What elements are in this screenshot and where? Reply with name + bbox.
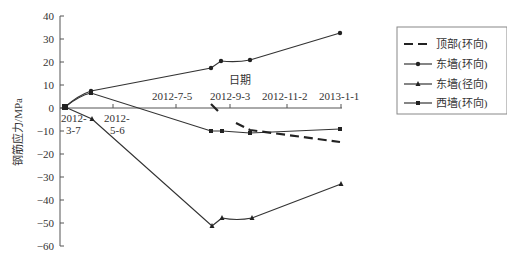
y-tick: −10 <box>37 125 55 137</box>
y-tick: −60 <box>37 240 55 252</box>
legend-item-east-hoop: 东墙(环向) <box>436 57 488 71</box>
y-tick: −50 <box>37 217 55 229</box>
x-axis <box>60 104 342 108</box>
y-tick: 10 <box>43 79 55 91</box>
series-east-wall-radial <box>65 107 344 228</box>
series-top-hoop <box>211 104 340 142</box>
x-axis-label: 日期 <box>229 74 251 86</box>
y-tick: 40 <box>43 10 55 22</box>
y-tick: 0 <box>49 102 55 114</box>
chart: 40 30 20 10 0 −10 −20 −30 −40 −50 −60 钢筋… <box>0 0 507 263</box>
y-tick: −20 <box>37 148 55 160</box>
x-tick: 5-6 <box>110 124 125 136</box>
x-tick: 2012- <box>104 112 130 124</box>
y-tick: −40 <box>37 194 55 206</box>
y-tick: −30 <box>37 171 55 183</box>
x-tick: 2012-11-2 <box>262 90 307 102</box>
x-tick: 3-7 <box>66 124 81 136</box>
x-tick: 2012-7-5 <box>152 90 193 102</box>
y-tick-labels: 40 30 20 10 0 −10 −20 −30 −40 −50 −60 <box>37 10 55 252</box>
legend-item-east-radial: 东墙(径向) <box>436 77 488 91</box>
legend: 顶部(环向) 东墙(环向) 东墙(径向) 西墙(环向) <box>397 27 507 114</box>
x-tick: 2012- <box>61 112 87 124</box>
y-axis <box>60 16 64 246</box>
legend-item-top-hoop: 顶部(环向) <box>436 37 488 51</box>
x-tick: 2013-1-1 <box>319 90 359 102</box>
y-tick: 30 <box>43 33 55 45</box>
origin-marker <box>62 104 68 110</box>
y-tick: 20 <box>43 56 55 68</box>
legend-item-west-hoop: 西墙(环向) <box>436 96 488 110</box>
x-tick: 2012-9-3 <box>210 90 251 102</box>
y-axis-label: 钢筋应力/MPa <box>11 98 24 166</box>
